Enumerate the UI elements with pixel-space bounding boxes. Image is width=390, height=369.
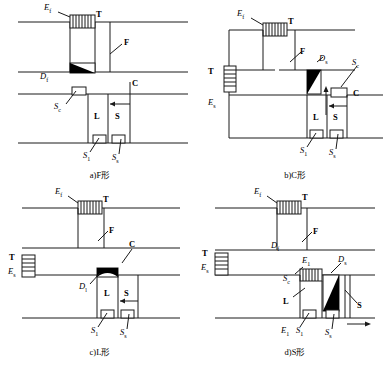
label-es-d: Es [201,263,209,274]
label-ds-d: Ds [338,255,346,266]
label-e1-d: E1 [281,326,289,337]
label-f-b: F [300,47,305,56]
leader-ef-d [267,196,277,203]
label-t-left-d: T [202,249,208,258]
label-ef-d: Ef [254,187,261,198]
panel-c-drawing [0,185,195,340]
label-c-c: C [129,240,135,249]
leader-sc [66,91,76,104]
s1-box-c [101,310,114,318]
label-l-c: L [104,289,110,298]
leader-f-c [98,231,108,241]
label-c-b: C [353,89,359,98]
label-t-a: T [96,10,102,19]
panel-d-drawing [195,185,390,340]
label-s1-d: S1 [296,326,303,337]
leader-s-d [345,290,357,303]
label-f-c: F [109,226,114,235]
label-ss-b: Ss [329,148,336,159]
label-l-b: L [313,113,319,122]
label-e1-coil-d: E1 [302,256,310,267]
panel-a-drawing [0,0,195,160]
leader-sc-b [341,66,357,87]
panel-a: Ef T F Df Sc C L S S1 Ss [0,0,195,160]
caption-d: d)S形 [255,345,335,357]
label-t-left-c: T [9,253,15,262]
label-s1-b: S1 [300,146,307,157]
label-ef-b: Ef [237,9,244,20]
label-l-d: L [283,297,289,306]
leader-ef-b [251,18,263,25]
sc-box-b [331,88,347,97]
label-s-d: S [357,301,362,310]
label-es-c: Es [8,267,16,278]
label-s1-a: S1 [83,151,90,162]
leader-ef [58,12,70,17]
panel-d: Ef T F T Es Df Sc E1 Ds L S E1 S1 Ss [195,185,390,340]
label-ds-b: Ds [319,54,327,65]
leader-l-d [293,288,305,297]
leader-ef-c [68,196,78,203]
caption-a: a)F形 [60,168,140,180]
caption-b: b)C形 [255,168,335,180]
arrow-up-head-b [324,86,329,92]
label-s-c: S [124,289,129,298]
s1-box-d [303,310,316,318]
coil-left-body-d [215,253,228,275]
ss-box-b [330,130,343,138]
label-ss-a: Ss [112,153,119,164]
label-dl-c: Dl [79,282,87,293]
arrow-right-head-d [365,322,371,327]
label-t-c: T [103,195,109,204]
s1-box [93,135,106,143]
label-t-left-b: T [208,67,214,76]
ss-box [112,135,125,143]
coil-left-body-c [22,255,35,277]
arrow-head [110,102,115,107]
label-s-b: S [333,113,338,122]
label-ss-c: Ss [120,328,127,339]
ss-box-c [121,310,134,318]
label-sc-b: Sc [352,58,359,69]
label-df-a: Df [40,72,48,83]
label-sc-d: Sc [283,274,290,285]
label-ef-c: Ef [55,187,62,198]
panel-c: Ef T F C T Es Dl L S S1 Ss [0,185,195,340]
s1-box-b [310,130,323,138]
leader-f [110,44,122,54]
label-df-d: Df [271,241,279,252]
label-f-d: F [313,227,318,236]
label-ss-d: Ss [325,328,332,339]
figure-sheet: Ef T F Df Sc C L S S1 Ss a)F形 [0,0,390,369]
arrow-head-c [120,299,125,304]
label-s1-c: S1 [91,326,98,337]
panel-b: Ef T F T Es Ds Sc C L S S1 Ss [195,0,390,160]
label-t-b: T [288,17,294,26]
label-f-a: F [124,38,129,47]
label-es-b: Es [208,98,216,109]
label-sc-a: Sc [54,102,61,113]
label-l-a: L [94,112,100,121]
caption-c: c)L形 [60,345,140,357]
arrow-left-head-b [329,104,334,109]
leader-c-c [122,249,132,263]
ss-box-d [326,310,339,318]
label-t-d: T [302,193,308,202]
label-ef-a: Ef [44,3,51,14]
label-s-a: S [115,112,120,121]
label-c-a: C [132,79,138,88]
